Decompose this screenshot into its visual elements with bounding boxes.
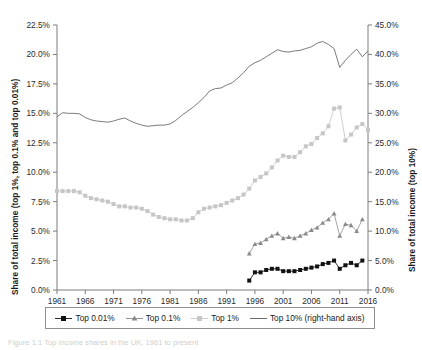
- data-point: [247, 187, 251, 191]
- right-tick-label: 45.0%: [375, 20, 399, 30]
- data-point: [66, 189, 70, 193]
- data-point: [287, 155, 291, 159]
- series-top-0-1-: [247, 211, 365, 255]
- x-tick-label: 1976: [133, 296, 152, 306]
- data-point: [298, 150, 302, 154]
- data-point: [338, 105, 342, 109]
- data-point: [129, 206, 133, 210]
- right-tick-label: 5.0%: [375, 256, 395, 266]
- data-point: [55, 189, 59, 193]
- data-point: [326, 261, 330, 265]
- left-tick-label: 2.5%: [31, 256, 51, 266]
- legend-marker-triangle-gray: [126, 314, 143, 323]
- data-point: [225, 201, 229, 205]
- data-point: [219, 203, 223, 207]
- data-point: [191, 216, 195, 220]
- data-point: [304, 144, 308, 148]
- data-point: [89, 196, 93, 200]
- data-point: [140, 207, 144, 211]
- data-point: [309, 142, 313, 146]
- left-axis-ticks: 0.0%2.5%5.0%7.5%10.0%12.5%15.0%17.5%20.0…: [26, 20, 57, 295]
- data-point: [202, 207, 206, 211]
- legend-marker-square-lightgray: [191, 314, 208, 323]
- data-point: [236, 196, 240, 200]
- data-point: [349, 133, 353, 137]
- data-point: [326, 124, 330, 128]
- data-point: [213, 204, 217, 208]
- data-point: [343, 263, 347, 267]
- right-tick-label: 35.0%: [375, 79, 399, 89]
- data-point: [117, 204, 121, 208]
- data-point: [123, 204, 127, 208]
- data-point: [276, 158, 280, 162]
- data-point: [174, 217, 178, 221]
- data-point: [292, 155, 296, 159]
- left-tick-label: 10.0%: [26, 167, 50, 177]
- data-point: [179, 219, 183, 223]
- data-point: [315, 264, 319, 268]
- data-point: [315, 136, 319, 140]
- data-point: [196, 210, 200, 214]
- data-point: [286, 235, 291, 239]
- data-point: [270, 166, 274, 170]
- right-tick-label: 20.0%: [375, 167, 399, 177]
- data-point: [106, 200, 110, 204]
- data-point: [337, 233, 342, 237]
- figure-caption: Figure 1.1 Top income shares in the UK, …: [8, 338, 414, 347]
- x-tick-label: 1996: [246, 296, 265, 306]
- data-point: [247, 251, 252, 255]
- data-point: [321, 262, 325, 266]
- legend-item-top10[interactable]: Top 10% (right-hand axis): [250, 313, 365, 323]
- data-point: [269, 233, 274, 237]
- data-point: [78, 190, 82, 194]
- x-tick-label: 1986: [189, 296, 208, 306]
- series-top-1-: [55, 105, 370, 222]
- data-point: [145, 209, 149, 213]
- data-point: [61, 189, 65, 193]
- data-point: [242, 193, 246, 197]
- legend-label: Top 10% (right-hand axis): [270, 313, 365, 323]
- right-axis-ticks: 0.0%5.0%10.0%15.0%20.0%25.0%30.0%35.0%40…: [368, 20, 399, 295]
- legend-item-top001[interactable]: Top 0.01%: [55, 313, 114, 323]
- data-point: [72, 189, 76, 193]
- series-top-10-right-hand-axis-: [57, 41, 368, 126]
- data-point: [230, 198, 234, 202]
- right-tick-label: 0.0%: [375, 285, 395, 295]
- data-point: [276, 267, 280, 271]
- legend-item-top01[interactable]: Top 0.1%: [126, 313, 181, 323]
- data-point: [343, 138, 347, 142]
- data-point: [253, 270, 257, 274]
- x-tick-label: 1971: [104, 296, 123, 306]
- right-tick-label: 40.0%: [375, 49, 399, 59]
- data-point: [320, 220, 325, 224]
- data-point: [162, 216, 166, 220]
- data-point: [112, 202, 116, 206]
- data-point: [134, 206, 138, 210]
- chart-legend: Top 0.01% Top 0.1% Top 1% Top 10% (right…: [45, 307, 375, 329]
- x-tick-label: 1981: [161, 296, 180, 306]
- legend-label: Top 0.1%: [146, 313, 181, 323]
- income-share-chart: 0.0%2.5%5.0%7.5%10.0%12.5%15.0%17.5%20.0…: [0, 0, 422, 350]
- data-point: [292, 269, 296, 273]
- data-point: [309, 266, 313, 270]
- series-group: [55, 41, 370, 282]
- data-point: [349, 261, 353, 265]
- legend-marker-plain-line: [250, 314, 267, 323]
- legend-item-top1[interactable]: Top 1%: [191, 313, 239, 323]
- legend-label: Top 1%: [211, 313, 239, 323]
- data-point: [208, 206, 212, 210]
- data-point: [168, 217, 172, 221]
- data-point: [321, 131, 325, 135]
- data-point: [355, 125, 359, 129]
- data-point: [338, 267, 342, 271]
- left-tick-label: 22.5%: [26, 20, 50, 30]
- data-point: [332, 107, 336, 111]
- data-point: [83, 194, 87, 198]
- data-point: [309, 228, 314, 232]
- left-tick-label: 5.0%: [31, 226, 51, 236]
- series-top-0-01-: [247, 259, 364, 283]
- data-point: [259, 270, 263, 274]
- left-tick-label: 7.5%: [31, 197, 51, 207]
- data-point: [366, 128, 370, 132]
- data-point: [151, 213, 155, 217]
